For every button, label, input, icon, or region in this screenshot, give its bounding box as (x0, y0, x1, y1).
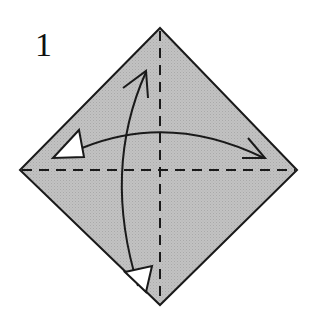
origami-diagram (0, 0, 321, 331)
paper-square (20, 28, 297, 305)
